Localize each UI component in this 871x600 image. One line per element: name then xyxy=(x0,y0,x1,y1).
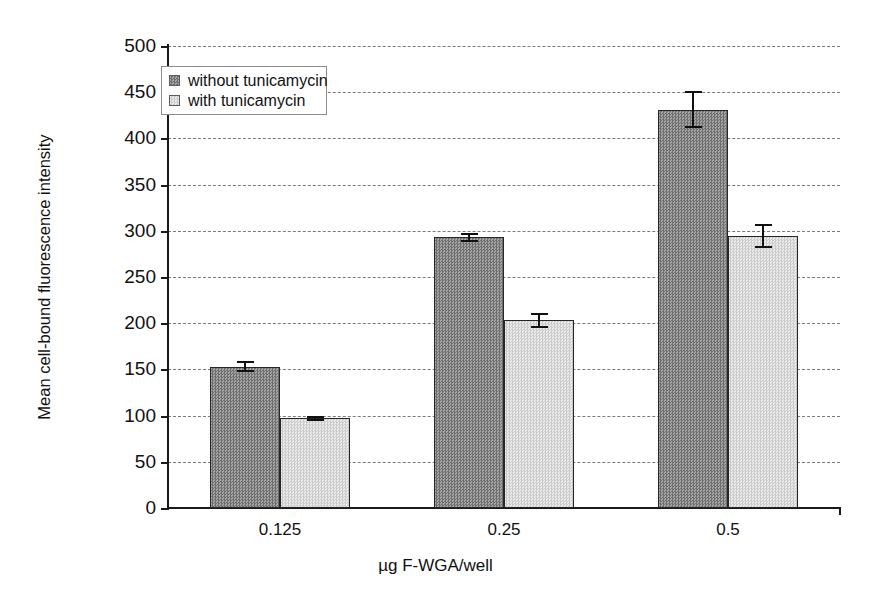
bar-0.5-light xyxy=(728,236,798,508)
error-bar-stem xyxy=(762,224,764,248)
gridline-350 xyxy=(168,185,840,186)
legend-item-with-tunicamycin: with tunicamycin xyxy=(169,93,320,109)
gridline-500 xyxy=(168,46,840,47)
error-bar-0.5-dark xyxy=(658,91,728,128)
y-tick-label-350: 350 xyxy=(124,175,156,194)
bar-chart-figure: Mean cell-bound fluorescence intensity 0… xyxy=(0,0,871,600)
x-tick-label-0.125: 0.125 xyxy=(259,521,302,539)
y-axis-tick-mark xyxy=(161,231,169,233)
y-tick-label-200: 200 xyxy=(124,313,156,332)
y-tick-label-400: 400 xyxy=(124,128,156,147)
error-bar-cap-bottom xyxy=(237,370,254,372)
error-bar-0.25-light xyxy=(504,313,574,328)
legend-swatch-icon-dark xyxy=(169,75,180,86)
error-bar-stem xyxy=(692,91,694,128)
bar-0.125-light xyxy=(280,418,350,508)
y-tick-label-500: 500 xyxy=(124,36,156,55)
y-axis-tick-mark xyxy=(161,369,169,371)
bar-0.25-dark xyxy=(434,237,504,508)
legend-label-with-tunicamycin: with tunicamycin xyxy=(188,93,305,109)
error-bar-cap-top xyxy=(685,91,702,93)
legend-swatch-icon-light xyxy=(169,95,180,106)
error-bar-cap-bottom xyxy=(461,240,478,242)
y-axis-title: Mean cell-bound fluorescence intensity xyxy=(30,46,58,508)
x-tick-label-0.5: 0.5 xyxy=(716,521,740,539)
y-axis-tick-mark xyxy=(161,138,169,140)
y-axis-tick-mark xyxy=(161,277,169,279)
gridline-400 xyxy=(168,138,840,139)
error-bar-0.125-dark xyxy=(210,361,280,372)
error-bar-cap-bottom xyxy=(755,246,772,248)
chart-legend: without tunicamycin with tunicamycin xyxy=(161,66,327,115)
y-tick-label-250: 250 xyxy=(124,267,156,286)
y-tick-label-450: 450 xyxy=(124,82,156,101)
error-bar-cap-top xyxy=(531,313,548,315)
y-tick-label-100: 100 xyxy=(124,406,156,425)
error-bar-cap-bottom xyxy=(307,419,324,421)
y-axis-tick-mark xyxy=(161,185,169,187)
error-bar-cap-top xyxy=(237,361,254,363)
error-bar-cap-bottom xyxy=(531,326,548,328)
error-bar-cap-top xyxy=(461,233,478,235)
error-bar-0.25-dark xyxy=(434,233,504,242)
y-tick-label-50: 50 xyxy=(135,452,156,471)
y-tick-label-150: 150 xyxy=(124,359,156,378)
error-bar-cap-bottom xyxy=(685,126,702,128)
y-axis-tick-mark xyxy=(161,323,169,325)
y-axis-tick-mark xyxy=(161,416,169,418)
bar-0.25-light xyxy=(504,320,574,508)
y-axis-tick-mark xyxy=(161,46,169,48)
plot-area: 050100150200250300350400450500 xyxy=(168,46,840,508)
error-bar-0.5-light xyxy=(728,224,798,248)
x-axis-end-tick xyxy=(839,507,841,515)
y-tick-label-300: 300 xyxy=(124,221,156,240)
legend-item-without-tunicamycin: without tunicamycin xyxy=(169,73,320,89)
x-axis-title: µg F-WGA/well xyxy=(0,556,871,576)
y-tick-label-0: 0 xyxy=(145,498,156,517)
error-bar-0.125-light xyxy=(280,416,350,422)
bar-0.125-dark xyxy=(210,367,280,508)
x-tick-label-0.25: 0.25 xyxy=(487,521,520,539)
y-axis-tick-mark xyxy=(161,508,169,510)
error-bar-cap-top xyxy=(755,224,772,226)
error-bar-cap-top xyxy=(307,416,324,418)
legend-label-without-tunicamycin: without tunicamycin xyxy=(188,73,328,89)
bar-0.5-dark xyxy=(658,110,728,508)
y-axis-tick-mark xyxy=(161,462,169,464)
